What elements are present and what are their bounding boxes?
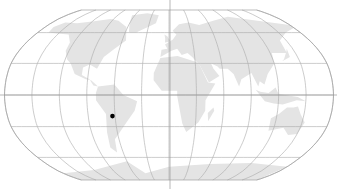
landmass-australia	[268, 107, 304, 135]
landmasses	[49, 13, 306, 180]
landmass-indonesia	[256, 88, 306, 105]
landmass-madagascar	[208, 108, 214, 122]
world-map[interactable]	[0, 0, 337, 189]
location-marker[interactable]	[110, 114, 115, 119]
landmass-antarctica	[63, 161, 287, 180]
landmass-greenland	[129, 13, 159, 32]
